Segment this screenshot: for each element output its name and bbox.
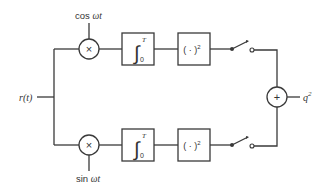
top-sampler-switch-icon [230,40,254,52]
top-to-summer-wire [254,50,277,87]
bottom-integral-lower: 0 [140,152,144,159]
bottom-to-summer-wire [254,107,277,146]
cos-reference-label: cos ωt [75,10,102,21]
top-integral-lower: 0 [140,56,144,63]
summer-symbol: + [274,91,280,103]
sin-reference-label: sin ωt [76,173,101,184]
bottom-multiplier-symbol: × [86,139,92,151]
bottom-branch: × sin ωt ∫ T 0 ( · )2 [54,107,277,184]
quadrature-receiver-diagram: r(t) cos ωt × ∫ T 0 ( · )2 [0,0,333,188]
top-multiplier-symbol: × [86,43,92,55]
output-label: q2 [303,90,312,103]
input-label: r(t) [19,92,33,104]
top-branch: cos ωt × ∫ T 0 ( · )2 [54,10,277,87]
bottom-sampler-switch-icon [230,136,254,148]
